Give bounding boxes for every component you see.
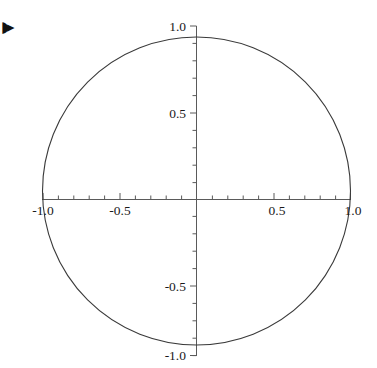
x-tick-label-1: 1.0 [345,203,362,218]
y-tick-label-neg1: -1.0 [165,348,187,363]
y-tick-label-0-5: 0.5 [169,106,186,121]
x-tick-label-neg1: -1.0 [32,203,54,218]
unit-circle-plot: -1.0 -0.5 0.5 1.0 1.0 0.5 -0.5 -1.0 [0,0,377,368]
y-axis-major-ticks [190,26,197,356]
x-tick-label-neg0-5: -0.5 [109,203,131,218]
x-tick-label-0-5: 0.5 [269,203,286,218]
y-tick-label-1: 1.0 [169,19,186,34]
axes-group [42,26,351,356]
y-tick-label-neg0-5: -0.5 [165,279,187,294]
plot-output-cell: ◗▸ [0,0,377,368]
